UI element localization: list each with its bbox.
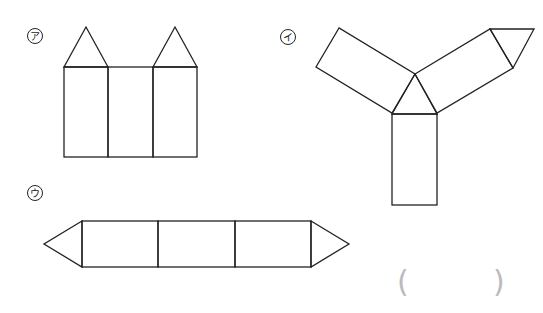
figure-i-label-text: イ <box>283 32 293 43</box>
figure-u-label: ウ <box>28 186 43 201</box>
figure-canvas: ア イ ウ ( ) <box>0 0 543 313</box>
figure-a-label-text: ア <box>30 31 40 42</box>
triangle-face <box>64 27 108 67</box>
rectangle-face <box>64 67 108 157</box>
figure-i: イ <box>281 28 535 205</box>
rectangle-face <box>82 221 158 267</box>
rectangle-face <box>415 29 513 113</box>
figure-i-label: イ <box>281 30 296 45</box>
close-paren: ) <box>493 264 505 299</box>
figure-a: ア <box>28 27 198 157</box>
open-paren: ( <box>397 264 409 299</box>
rectangle-face <box>392 114 437 205</box>
triangle-face <box>44 221 82 267</box>
triangle-face <box>311 221 349 267</box>
triangle-face <box>392 74 437 114</box>
rectangle-face <box>158 221 235 267</box>
answer-blank[interactable]: ( ) <box>397 264 505 299</box>
figure-u-label-text: ウ <box>30 188 40 199</box>
triangle-face <box>490 29 534 68</box>
figure-u: ウ <box>28 186 350 268</box>
figure-a-label: ア <box>28 29 43 44</box>
rectangle-face <box>108 67 153 157</box>
triangle-face <box>153 27 197 67</box>
rectangle-face <box>153 67 197 157</box>
rectangle-face <box>235 221 311 267</box>
